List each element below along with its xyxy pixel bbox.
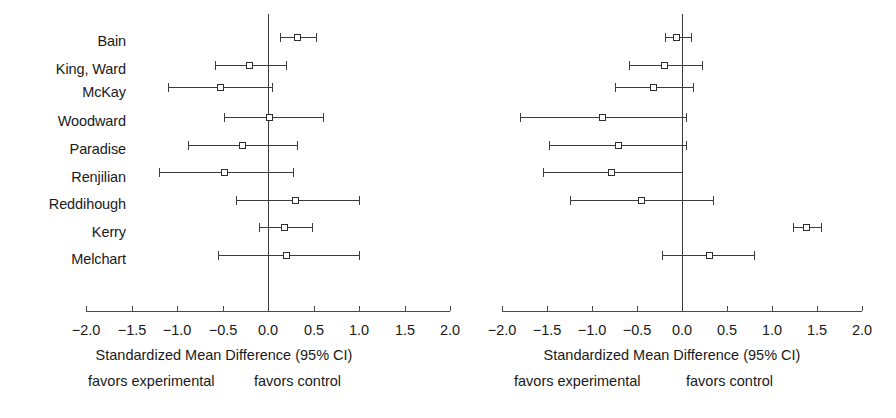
x-axis-tick-label: −2.0 — [72, 323, 101, 338]
confidence-interval-cap-lower — [549, 141, 550, 150]
x-axis-tick-label: 1.0 — [349, 323, 369, 338]
confidence-interval-cap-lower — [543, 168, 544, 177]
effect-size-marker — [283, 252, 290, 259]
x-axis-tick-label: 1.5 — [395, 323, 415, 338]
confidence-interval-cap-lower — [224, 113, 225, 122]
forest-plot-figure: Bain King, Ward McKay Woodward Paradise … — [0, 0, 896, 418]
x-axis-tick-label: −2.0 — [488, 323, 517, 338]
x-axis-tick — [359, 306, 360, 311]
axis-caption-favors-experimental: favors experimental — [88, 374, 215, 389]
x-axis-tick — [314, 306, 315, 311]
confidence-interval-cap-upper — [312, 223, 313, 232]
confidence-interval-cap-upper — [821, 223, 822, 232]
x-axis-tick — [817, 306, 818, 311]
confidence-interval-cap-upper — [686, 113, 687, 122]
effect-size-marker — [221, 169, 228, 176]
forest-plot-panel-left: Bain King, Ward McKay Woodward Paradise … — [0, 0, 448, 418]
effect-size-marker — [638, 197, 645, 204]
effect-size-marker — [650, 84, 657, 91]
forest-plot-panel-right: −2.0−1.5−1.0−0.50.00.51.01.52.0 Standard… — [448, 0, 896, 418]
x-axis-tick-label: 0.5 — [304, 323, 324, 338]
x-axis-tick-label: −1.0 — [163, 323, 192, 338]
confidence-interval-cap-upper — [286, 61, 287, 70]
axis-caption-favors-experimental: favors experimental — [514, 374, 641, 389]
confidence-interval-cap-upper — [754, 251, 755, 260]
confidence-interval-cap-upper — [293, 168, 294, 177]
confidence-interval-cap-upper — [323, 113, 324, 122]
confidence-interval-cap-upper — [686, 141, 687, 150]
confidence-interval-cap-upper — [359, 196, 360, 205]
confidence-interval-cap-upper — [359, 251, 360, 260]
x-axis-tick-label: 0.0 — [672, 323, 692, 338]
effect-size-marker — [281, 224, 288, 231]
confidence-interval-cap-upper — [297, 141, 298, 150]
x-axis-tick-label: 0.5 — [717, 323, 737, 338]
x-axis-tick-label: −0.5 — [209, 323, 238, 338]
x-axis-tick — [727, 306, 728, 311]
x-axis-tick — [637, 306, 638, 311]
confidence-interval-cap-upper — [702, 61, 703, 70]
x-axis-tick-label: 2.0 — [852, 323, 872, 338]
x-axis-tick — [772, 306, 773, 311]
confidence-interval-cap-upper — [682, 168, 683, 177]
reference-line-zero — [268, 14, 269, 311]
x-axis-tick-label: −1.5 — [533, 323, 562, 338]
confidence-interval-cap-lower — [629, 61, 630, 70]
effect-size-marker — [266, 114, 273, 121]
x-axis-tick-label: 1.5 — [807, 323, 827, 338]
effect-size-marker — [599, 114, 606, 121]
confidence-interval-cap-lower — [665, 33, 666, 42]
x-axis-line — [502, 311, 862, 312]
effect-size-marker — [803, 224, 810, 231]
confidence-interval-cap-lower — [259, 223, 260, 232]
confidence-interval-cap-lower — [215, 61, 216, 70]
x-axis-tick-label: 0.0 — [258, 323, 278, 338]
confidence-interval-cap-lower — [280, 33, 281, 42]
confidence-interval-cap-lower — [188, 141, 189, 150]
confidence-interval-cap-lower — [662, 251, 663, 260]
confidence-interval-cap-upper — [713, 196, 714, 205]
confidence-interval-cap-upper — [272, 83, 273, 92]
effect-size-marker — [615, 142, 622, 149]
x-axis-tick-label: 1.0 — [762, 323, 782, 338]
confidence-interval-line — [224, 117, 322, 118]
effect-size-marker — [217, 84, 224, 91]
axis-caption-title: Standardized Mean Difference (95% CI) — [0, 348, 448, 363]
confidence-interval-cap-lower — [793, 223, 794, 232]
effect-size-marker — [661, 62, 668, 69]
effect-size-marker — [673, 34, 680, 41]
confidence-interval-cap-lower — [520, 113, 521, 122]
confidence-interval-cap-lower — [570, 196, 571, 205]
confidence-interval-cap-lower — [159, 168, 160, 177]
effect-size-marker — [706, 252, 713, 259]
confidence-interval-cap-upper — [316, 33, 317, 42]
effect-size-marker — [294, 34, 301, 41]
axis-caption-favors-control: favors control — [254, 374, 341, 389]
x-axis-line — [86, 311, 450, 312]
x-axis-tick — [177, 306, 178, 311]
x-axis-tick — [862, 306, 863, 311]
x-axis-tick-label: −1.0 — [578, 323, 607, 338]
axis-caption-title: Standardized Mean Difference (95% CI) — [448, 348, 896, 363]
x-axis-tick — [132, 306, 133, 311]
confidence-interval-cap-lower — [615, 83, 616, 92]
x-axis-tick — [502, 306, 503, 311]
effect-size-marker — [239, 142, 246, 149]
confidence-interval-cap-upper — [693, 83, 694, 92]
confidence-interval-cap-lower — [168, 83, 169, 92]
x-axis-tick — [223, 306, 224, 311]
x-axis-tick — [547, 306, 548, 311]
effect-size-marker — [292, 197, 299, 204]
confidence-interval-cap-lower — [236, 196, 237, 205]
x-axis-tick — [592, 306, 593, 311]
confidence-interval-cap-lower — [218, 251, 219, 260]
effect-size-marker — [608, 169, 615, 176]
confidence-interval-cap-upper — [691, 33, 692, 42]
x-axis-tick-label: −1.5 — [118, 323, 147, 338]
x-axis-tick — [405, 306, 406, 311]
x-axis-tick-label: −0.5 — [623, 323, 652, 338]
effect-size-marker — [246, 62, 253, 69]
x-axis-tick — [86, 306, 87, 311]
reference-line-zero — [682, 14, 683, 311]
axis-caption-favors-control: favors control — [686, 374, 773, 389]
